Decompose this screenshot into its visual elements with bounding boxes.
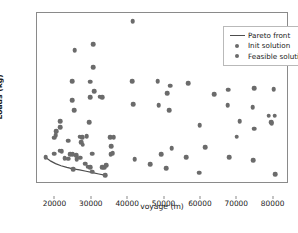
scatter-point <box>186 81 191 86</box>
x-tick-label: 60000 <box>188 199 212 208</box>
scatter-point <box>273 114 278 119</box>
scatter-point <box>71 167 76 172</box>
scatter-point <box>88 95 93 100</box>
x-tick-label: 40000 <box>115 199 139 208</box>
scatter-point <box>157 103 162 108</box>
scatter-point <box>58 125 63 130</box>
x-tick-label: 80000 <box>261 199 285 208</box>
scatter-point <box>81 142 86 147</box>
x-tick-label: 20000 <box>43 199 67 208</box>
scatter-point <box>100 95 105 100</box>
scatter-point <box>226 87 231 92</box>
scatter-point <box>271 87 276 92</box>
scatter-point <box>70 98 75 103</box>
scatter-point <box>169 146 174 151</box>
scatter-point <box>184 155 189 160</box>
scatter-point <box>66 138 71 143</box>
scatter-point <box>273 172 278 177</box>
scatter-point <box>90 151 95 156</box>
scatter-point <box>70 79 75 84</box>
chart-legend: Pareto front Init solution Feasible solu… <box>223 26 298 66</box>
plot-area: 01234567 2000030000400005000060000700008… <box>36 12 288 183</box>
scatter-point <box>73 48 78 53</box>
scatter-point <box>155 79 160 84</box>
scatter-point <box>203 145 208 150</box>
scatter-point <box>87 120 92 125</box>
scatter-point <box>90 169 95 174</box>
legend-label: Init solution <box>246 41 290 50</box>
scatter-point <box>164 166 169 171</box>
scatter-point <box>85 134 90 139</box>
legend-label: Feasible solutions <box>246 52 298 61</box>
scatter-point <box>168 83 173 88</box>
scatter-point <box>130 19 135 24</box>
scatter-point <box>52 135 57 140</box>
scatter-point <box>103 173 108 178</box>
scatter-point <box>72 108 77 113</box>
scatter-point <box>131 102 136 107</box>
scatter-point <box>251 158 256 163</box>
scatter-point <box>250 105 255 110</box>
scatter-point <box>227 155 232 160</box>
scatter-point <box>66 156 71 161</box>
legend-marker-swatch <box>228 44 246 48</box>
scatter-point <box>269 121 274 126</box>
scatter-point <box>225 103 230 108</box>
scatter-point <box>133 157 138 162</box>
scatter-point <box>43 155 48 160</box>
scatter-point <box>159 152 164 157</box>
scatter-point <box>58 119 63 124</box>
scatter-point <box>148 162 153 167</box>
scatter-point <box>234 134 239 139</box>
x-tick-label: 50000 <box>152 199 176 208</box>
x-tick-label: 70000 <box>225 199 249 208</box>
scatter-point <box>92 89 97 94</box>
legend-marker-swatch <box>228 54 246 58</box>
scatter-point <box>165 91 170 96</box>
scatter-point <box>197 123 202 128</box>
scatter-point <box>59 149 64 154</box>
legend-item-init-solution: Init solution <box>228 41 298 52</box>
scatter-point <box>167 108 172 113</box>
scatter-point <box>252 86 257 91</box>
scatter-point <box>266 114 271 119</box>
scatter-point <box>78 156 83 161</box>
scatter-point <box>197 170 202 175</box>
scatter-point <box>212 92 217 97</box>
scatter-point <box>237 119 242 124</box>
scatter-point <box>104 163 109 168</box>
legend-line-swatch <box>228 35 246 36</box>
scatter-point <box>252 126 257 131</box>
y-axis-label: Loads (kg) <box>0 74 4 119</box>
scatter-point <box>109 144 114 149</box>
scatter-point <box>110 151 115 156</box>
legend-label: Pareto front <box>246 31 290 40</box>
scatter-point <box>111 135 116 140</box>
x-tick-label: 30000 <box>79 199 103 208</box>
scatter-point <box>130 79 135 84</box>
scatter-point <box>91 65 96 70</box>
scatter-point <box>88 79 93 84</box>
scatter-point <box>91 42 96 47</box>
scatter-point <box>52 151 57 156</box>
legend-item-feasible-solutions: Feasible solutions <box>228 51 298 62</box>
legend-item-pareto-front: Pareto front <box>228 30 298 41</box>
scatter-chart-figure: Loads (kg) voyage (m) 01234567 200003000… <box>0 0 298 233</box>
